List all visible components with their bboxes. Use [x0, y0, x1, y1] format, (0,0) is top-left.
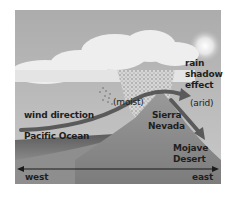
wind-direction-label: wind direction [24, 110, 94, 120]
moist-label: (moist) [113, 97, 144, 107]
rain-shadow-label-line1: rain [185, 58, 204, 68]
rain-shadow-label-line2: shadow [185, 69, 223, 79]
sierra-nevada-label-line2: Nevada [148, 121, 185, 131]
west-label: west [25, 172, 48, 182]
east-label: east [192, 172, 213, 182]
mojave-desert-label-line1: Mojave [173, 143, 208, 153]
rain-shadow-label-line3: effect [185, 80, 213, 90]
pacific-ocean-label: Pacific Ocean [24, 131, 89, 141]
mojave-desert-label-line2: Desert [173, 154, 206, 164]
rain-shadow-diagram: rain shadow effect wind direction (moist… [15, 10, 221, 184]
arid-label: (arid) [190, 98, 213, 108]
sierra-nevada-label-line1: Sierra [152, 110, 181, 120]
